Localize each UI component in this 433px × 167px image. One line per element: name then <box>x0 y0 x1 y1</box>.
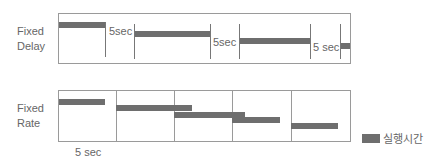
execution-bar <box>116 105 192 111</box>
tick <box>310 24 311 59</box>
legend-swatch <box>362 134 380 143</box>
interval-divider <box>291 90 292 142</box>
gap-label: 5sec <box>213 36 236 48</box>
execution-bar <box>59 22 105 28</box>
execution-bar <box>291 123 338 129</box>
interval-divider <box>116 90 117 142</box>
tick <box>105 22 106 57</box>
tick <box>210 24 211 59</box>
execution-bar <box>232 117 280 123</box>
tick <box>340 24 341 59</box>
execution-bar <box>59 99 105 105</box>
gap-label: 5 sec <box>313 41 339 53</box>
interval-label: 5 sec <box>75 146 101 158</box>
execution-bar <box>135 31 210 37</box>
tick <box>134 24 135 59</box>
legend: 실행시간 <box>362 130 423 146</box>
fixed-delay-label: Fixed Delay <box>17 24 45 54</box>
execution-bar <box>240 38 311 44</box>
fixed-rate-label: Fixed Rate <box>17 101 44 131</box>
legend-label: 실행시간 <box>383 130 423 146</box>
gap-label: 5sec <box>109 25 132 37</box>
execution-bar <box>341 43 350 49</box>
